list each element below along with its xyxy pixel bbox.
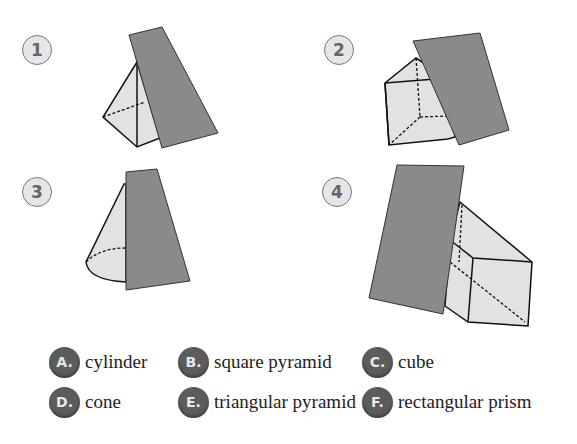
option-label: cube	[398, 351, 434, 373]
figure-number-3: 3	[22, 177, 52, 207]
option-label: cone	[85, 391, 121, 413]
option-label: cylinder	[85, 351, 147, 373]
option-e[interactable]: E. triangular pyramid	[178, 387, 356, 417]
figure-2-prism	[385, 33, 509, 145]
solids-with-planes-illustration	[0, 0, 577, 444]
option-badge: A.	[49, 347, 80, 378]
figure-number-2: 2	[324, 35, 354, 65]
figure-number-1: 1	[22, 35, 52, 65]
figure-number-4: 4	[322, 177, 352, 207]
figure-4-prism	[369, 165, 532, 326]
option-b[interactable]: B. square pyramid	[178, 347, 332, 377]
figure-3-cone	[86, 169, 190, 290]
option-badge: C.	[362, 347, 393, 378]
option-a[interactable]: A. cylinder	[49, 347, 147, 377]
option-d[interactable]: D. cone	[49, 387, 121, 417]
option-badge: F.	[362, 387, 393, 418]
option-badge: D.	[49, 387, 80, 418]
option-badge: B.	[178, 347, 209, 378]
figure-1-triangular-pyramid	[103, 27, 218, 148]
option-c[interactable]: C. cube	[362, 347, 434, 377]
option-f[interactable]: F. rectangular prism	[362, 387, 531, 417]
option-label: square pyramid	[214, 351, 332, 373]
option-label: triangular pyramid	[214, 391, 356, 413]
option-label: rectangular prism	[398, 391, 531, 413]
option-badge: E.	[178, 387, 209, 418]
